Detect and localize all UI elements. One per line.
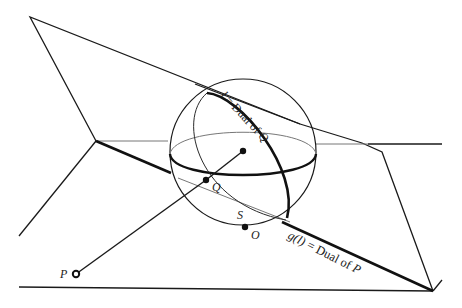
label-Q: Q — [212, 180, 221, 194]
diagram: P Q S O l = Dual of Q g(l) = Dual of P — [0, 0, 462, 308]
point-P — [73, 271, 79, 277]
label-S: S — [237, 208, 243, 222]
sphere — [170, 79, 362, 225]
diagram-canvas: P Q S O l = Dual of Q g(l) = Dual of P — [0, 0, 462, 308]
line-g-dual-of-P — [96, 141, 433, 291]
line-P-to-Q — [76, 180, 206, 274]
point-Q — [203, 177, 209, 183]
label-l-dual-of-Q: l = Dual of Q — [218, 88, 272, 145]
label-P: P — [59, 267, 68, 281]
label-O: O — [251, 228, 260, 242]
point-O — [242, 224, 248, 230]
point-center — [240, 148, 246, 154]
upper-plane — [30, 17, 433, 291]
horizon-lines — [96, 141, 442, 222]
